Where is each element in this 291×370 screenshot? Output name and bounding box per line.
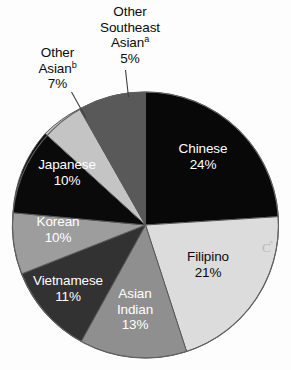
callout-line-1: Other xyxy=(5,45,110,61)
slice-label-percent: 13% xyxy=(102,317,168,333)
callout-other-asian: Other Asianb 7% xyxy=(5,45,110,92)
callout-line-2: Southeast xyxy=(60,20,200,36)
slice-label-percent: 10% xyxy=(18,230,98,246)
slice-label-vietnamese: Vietnamese 11% xyxy=(20,273,116,304)
callout-line-1: Other xyxy=(60,4,200,20)
slice-label-percent: 10% xyxy=(22,173,112,189)
callout-line-2: Asianb xyxy=(5,61,110,77)
slice-label-chinese: Chinese 24% xyxy=(158,141,248,172)
callout-line-3-text: Asian xyxy=(111,35,144,50)
slice-label-name: Filipino xyxy=(166,249,250,265)
callout-line-2-text: Asian xyxy=(38,61,71,76)
callout-percent: 7% xyxy=(5,76,110,92)
slice-label-korean: Korean 10% xyxy=(18,214,98,245)
slice-label-name: Japanese xyxy=(22,157,112,173)
footnote-marker-a: a xyxy=(144,34,149,44)
slice-label-percent: 24% xyxy=(158,157,248,173)
slice-label-name: Vietnamese xyxy=(20,273,116,289)
slice-label-percent: 21% xyxy=(166,265,250,281)
slice-label-name: Chinese xyxy=(158,141,248,157)
slice-label-japanese: Japanese 10% xyxy=(22,157,112,188)
slice-label-filipino: Filipino 21% xyxy=(166,249,250,280)
footnote-marker-b: b xyxy=(72,60,77,70)
slice-label-percent: 11% xyxy=(20,289,116,305)
pie-chart-figure: Other Southeast Asiana 5% Other Asianb 7… xyxy=(0,0,291,370)
slice-label-name: Korean xyxy=(18,214,98,230)
